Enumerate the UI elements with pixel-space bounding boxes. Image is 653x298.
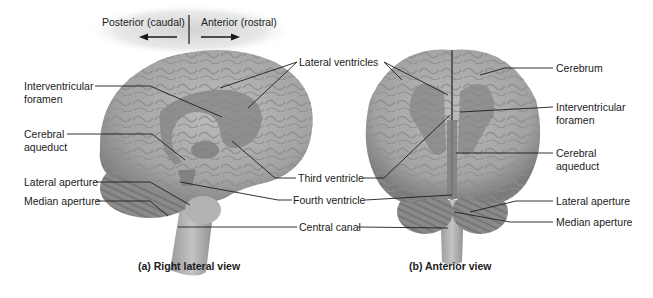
anterior-label: Anterior (rostral) (201, 16, 277, 28)
caption-anterior-view: (b) Anterior view (409, 260, 491, 272)
label-line-2: foramen (556, 114, 625, 127)
label-line-2: foramen (24, 93, 93, 106)
third-ventricle-anterior (447, 120, 457, 198)
lateral-view-brain (100, 50, 313, 276)
label-fourth-ventricle: Fourth ventricle (293, 194, 365, 207)
posterior-label: Posterior (caudal) (102, 16, 185, 28)
label-lateral-aperture-anterior: Lateral aperture (556, 195, 630, 208)
label-central-canal: Central canal (299, 221, 361, 234)
orientation-glow (85, 4, 295, 56)
third-ventricle-shape (191, 141, 219, 159)
label-lateral-aperture-lateral: Lateral aperture (24, 176, 98, 189)
label-median-aperture-anterior: Median aperture (556, 216, 632, 229)
anterior-view-brain (366, 50, 540, 265)
label-lateral-ventricles: Lateral ventricles (299, 56, 378, 69)
label-line-2: aqueduct (556, 160, 599, 173)
label-line-1: Cerebral (24, 128, 67, 141)
label-cerebral-aqueduct-anterior: Cerebral aqueduct (556, 147, 599, 173)
label-cerebral-aqueduct-lateral: Cerebral aqueduct (24, 128, 67, 154)
caption-lateral-view: (a) Right lateral view (138, 260, 240, 272)
label-line-1: Interventricular (556, 101, 625, 114)
label-cerebrum: Cerebrum (556, 62, 603, 75)
label-median-aperture-lateral: Median aperture (24, 195, 100, 208)
label-line-1: Interventricular (24, 80, 93, 93)
label-line-2: aqueduct (24, 141, 67, 154)
label-interventricular-foramen-anterior: Interventricular foramen (556, 101, 625, 127)
label-interventricular-foramen-lateral: Interventricular foramen (24, 80, 93, 106)
label-third-ventricle: Third ventricle (298, 172, 364, 185)
label-line-1: Cerebral (556, 147, 599, 160)
